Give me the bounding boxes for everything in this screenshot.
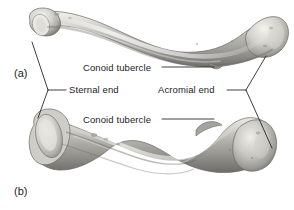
- clavicle-figure: Conoid tubercle Sternal end Acromial end…: [0, 0, 294, 210]
- label-sternal-end: Sternal end: [69, 84, 119, 95]
- panel-label-b: (b): [14, 185, 27, 197]
- conoid-tubercle-bump-b: [196, 122, 222, 136]
- label-acromial-end: Acromial end: [158, 84, 215, 95]
- leader-acromial-branch-up: [246, 56, 266, 90]
- leader-sternal-branch-up: [32, 42, 48, 90]
- clavicle-superior-view: [29, 8, 288, 69]
- clavicle-illustration: [0, 0, 294, 210]
- panel-label-a: (a): [14, 67, 27, 79]
- clavicle-inferior-view: [29, 109, 276, 174]
- label-conoid-tubercle-superior: Conoid tubercle: [83, 62, 151, 73]
- label-conoid-tubercle-inferior: Conoid tubercle: [83, 114, 151, 125]
